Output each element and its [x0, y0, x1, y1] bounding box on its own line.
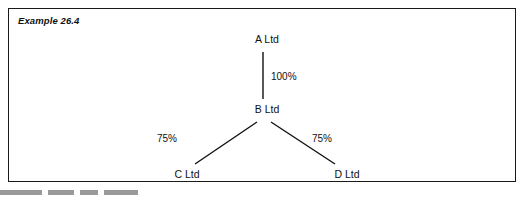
node-b-ltd: B Ltd [237, 103, 297, 115]
node-d-ltd: D Ltd [317, 168, 377, 180]
edge-label-b-d: 75% [312, 133, 332, 144]
example-panel: Example 26.4 A Ltd B Ltd C Ltd D Ltd 100… [8, 8, 516, 182]
edge-b-to-c [195, 122, 257, 164]
node-c-ltd: C Ltd [157, 168, 217, 180]
footer-mark [80, 190, 98, 195]
edge-label-a-b: 100% [271, 71, 297, 82]
footer-mark [0, 190, 42, 195]
edge-label-b-c: 75% [157, 133, 177, 144]
footer-mark [104, 190, 138, 195]
footer-mark [48, 190, 74, 195]
page-footer-artifact [0, 186, 526, 200]
node-a-ltd: A Ltd [237, 33, 297, 45]
